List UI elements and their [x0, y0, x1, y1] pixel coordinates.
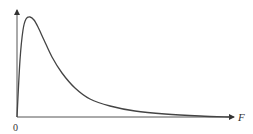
- density-curve: [17, 17, 230, 117]
- x-axis-label: F: [237, 111, 245, 123]
- origin-label: 0: [13, 122, 18, 133]
- chart: F 0: [0, 0, 253, 134]
